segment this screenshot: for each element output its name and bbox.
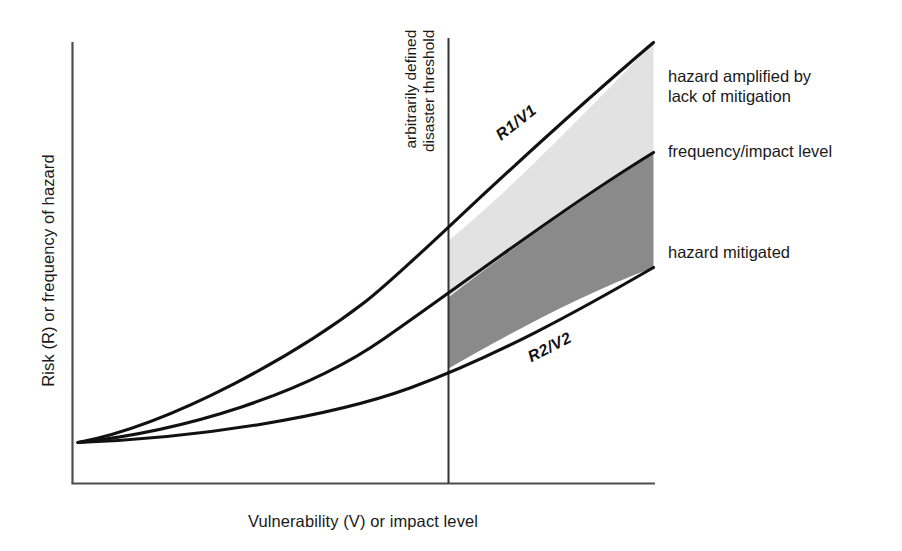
risk-vulnerability-diagram: Risk (R) or frequency of hazard Vulnerab… <box>0 0 902 551</box>
annotation-hazard-amplified-line-2: lack of mitigation <box>668 87 811 107</box>
annotation-frequency-impact-level: frequency/impact level <box>668 142 832 162</box>
disaster-threshold-caption: arbitrarily defined disaster threshold <box>402 30 437 244</box>
x-axis-label: Vulnerability (V) or impact level <box>183 512 543 531</box>
annotation-hazard-amplified-line-1: hazard amplified by <box>668 67 811 87</box>
annotation-hazard-amplified: hazard amplified by lack of mitigation <box>668 67 811 107</box>
annotation-hazard-mitigated: hazard mitigated <box>668 243 790 263</box>
y-axis-label: Risk (R) or frequency of hazard <box>39 106 58 436</box>
threshold-caption-line-2: disaster threshold <box>420 30 438 244</box>
threshold-caption-line-1: arbitrarily defined <box>402 30 420 244</box>
